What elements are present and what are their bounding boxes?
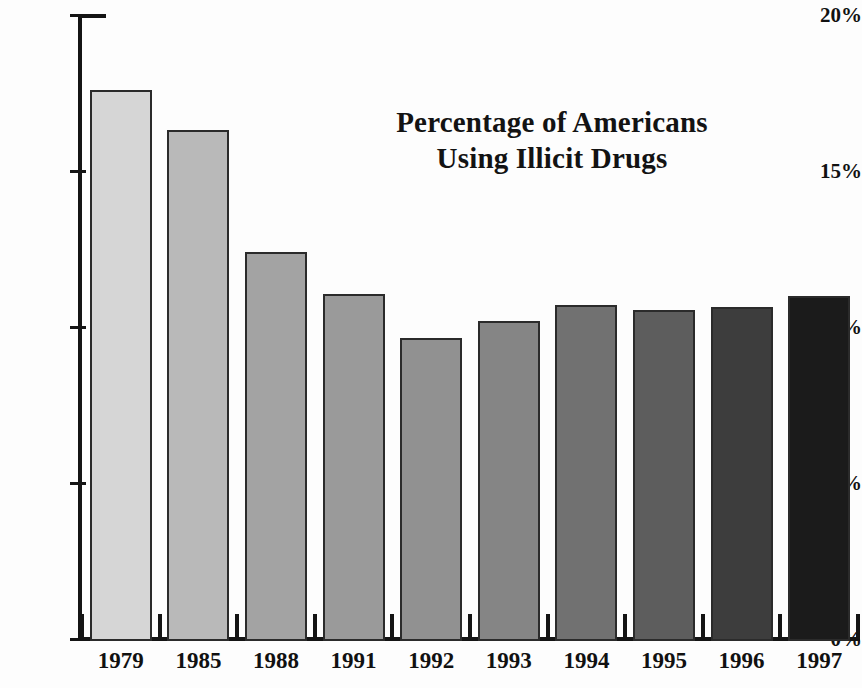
chart-figure: Percentage of Americans Using Illicit Dr… (0, 0, 862, 688)
bar-1988 (245, 252, 307, 641)
bar-1991 (323, 294, 385, 641)
bar-1985 (167, 130, 229, 641)
x-axis-tick (778, 614, 782, 639)
x-axis-label-1988: 1988 (253, 648, 299, 674)
y-axis-tick (70, 482, 86, 485)
bar-1992 (400, 338, 462, 641)
y-axis-tick-label: 15% (796, 159, 862, 184)
bar-1995 (633, 310, 695, 641)
x-axis-label-1992: 1992 (408, 648, 454, 674)
y-axis-tick-label: 20% (796, 3, 862, 28)
y-axis-tick (70, 326, 86, 329)
plot-area: 0%5%10%15%20% 19791985198819911992199319… (0, 0, 862, 688)
x-axis-tick (390, 614, 394, 639)
x-axis-tick (313, 614, 317, 639)
x-axis-tick (468, 614, 472, 639)
bar-1997 (788, 296, 850, 641)
x-axis-label-1991: 1991 (331, 648, 377, 674)
bar-1996 (711, 307, 773, 641)
x-axis-tick (80, 614, 84, 639)
x-axis-tick (546, 614, 550, 639)
y-axis-tick (70, 170, 86, 173)
bar-1994 (555, 305, 617, 641)
bar-1979 (90, 90, 152, 641)
x-axis-tick-end (856, 614, 860, 639)
bar-1993 (478, 321, 540, 641)
x-axis-tick (623, 614, 627, 639)
x-axis-label-1994: 1994 (563, 648, 609, 674)
x-axis-label-1993: 1993 (486, 648, 532, 674)
x-axis-label-1979: 1979 (98, 648, 144, 674)
x-axis-label-1985: 1985 (175, 648, 221, 674)
x-axis-tick (158, 614, 162, 639)
x-axis-label-1997: 1997 (796, 648, 842, 674)
x-axis-label-1996: 1996 (719, 648, 765, 674)
y-axis-tick (70, 14, 86, 17)
x-axis-tick (701, 614, 705, 639)
x-axis-label-1995: 1995 (641, 648, 687, 674)
x-axis-tick (235, 614, 239, 639)
